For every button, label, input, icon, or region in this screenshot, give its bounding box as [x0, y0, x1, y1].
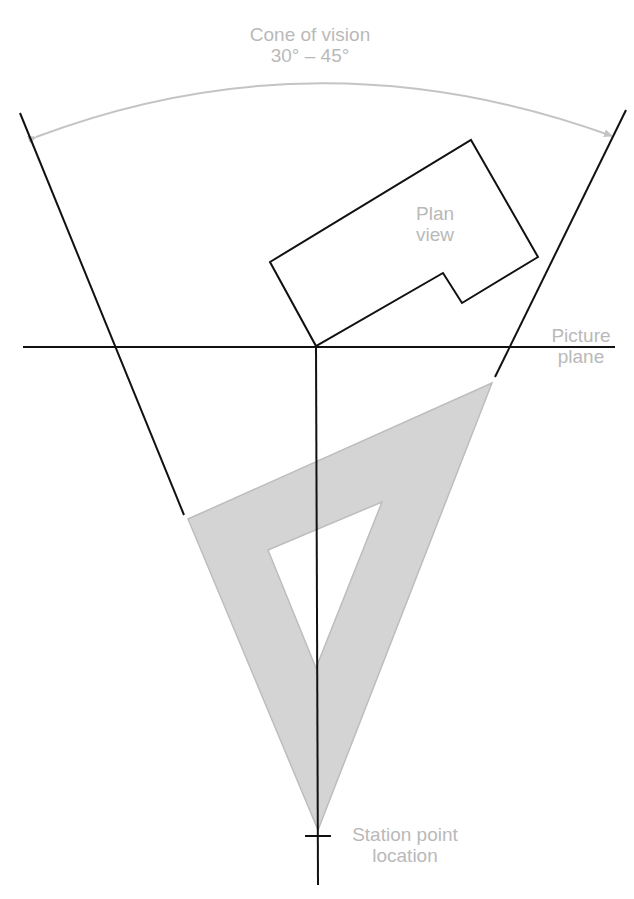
plan-label-line2: view [405, 224, 465, 245]
picture-label-line1: Picture [526, 325, 634, 346]
cone-label-line2: 30° – 45° [230, 45, 390, 66]
plan-view-shape [270, 140, 538, 346]
picture-label-line2: plane [526, 346, 634, 367]
station-point-label: Station point location [330, 824, 480, 866]
cone-left-line [20, 113, 184, 515]
set-square-triangle [188, 383, 492, 830]
cone-of-vision-arc [36, 83, 612, 137]
cone-label-line1: Cone of vision [230, 24, 390, 45]
cone-of-vision-label: Cone of vision 30° – 45° [230, 24, 390, 66]
perspective-diagram [0, 0, 634, 899]
picture-plane-label: Picture plane [526, 325, 634, 367]
station-label-line1: Station point [330, 824, 480, 845]
plan-view-label: Plan view [405, 203, 465, 245]
plan-label-line1: Plan [405, 203, 465, 224]
station-label-line2: location [330, 845, 480, 866]
